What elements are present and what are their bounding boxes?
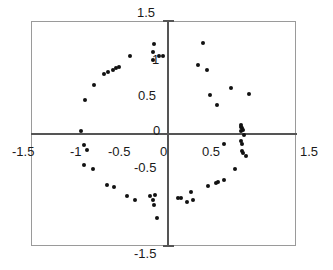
x-tick-label-1-5: 1.5 [300,145,318,159]
y-tick-label-1: 1 [152,53,159,67]
scatter-plot-figure: 1.5 1 0.5 0 -0.5 -1.5 -1.5 -1 -0.5 0 0.5… [0,0,333,270]
x-axis-line [31,133,297,135]
x-tick-label-0-5: 0.5 [202,145,220,159]
x-tick-label-neg-0-5: -0.5 [108,145,130,159]
y-tick-label-0: 0 [153,124,160,138]
y-tick-label-neg-0-5: -0.5 [134,161,156,175]
x-tick-label-neg-1-5: -1.5 [12,145,34,159]
y-tick-label-0-5: 0.5 [138,89,156,103]
y-axis-bottom-tick-mark [163,245,174,247]
x-tick-label-0: 0 [160,145,167,159]
y-tick-label-1-5: 1.5 [137,6,155,20]
y-axis-top-tick-mark [163,20,174,22]
y-tick-label-neg-1-5: -1.5 [134,247,156,261]
x-tick-label-neg-1: -1 [70,145,82,159]
y-axis-line [167,21,169,247]
